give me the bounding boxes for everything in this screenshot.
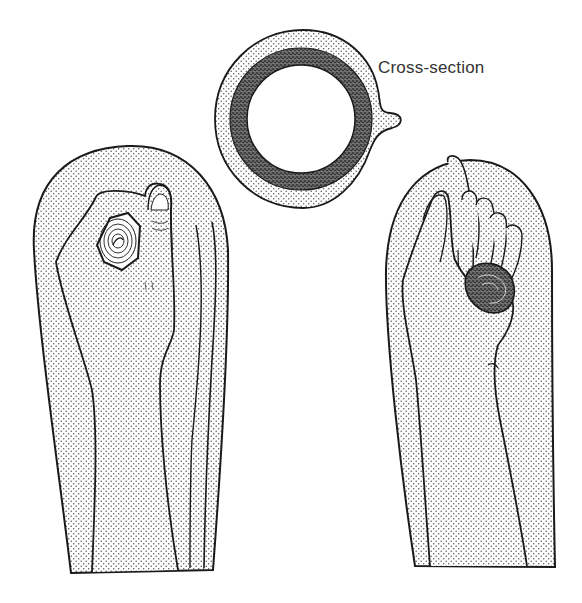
left-arm-figure: [34, 146, 228, 573]
cross-section-label: Cross-section: [378, 58, 485, 78]
illustration-canvas: [0, 0, 582, 603]
right-arm-figure: [386, 156, 555, 567]
cross-section-hollow-center: [247, 65, 355, 173]
cross-section-diagram: [215, 30, 401, 208]
